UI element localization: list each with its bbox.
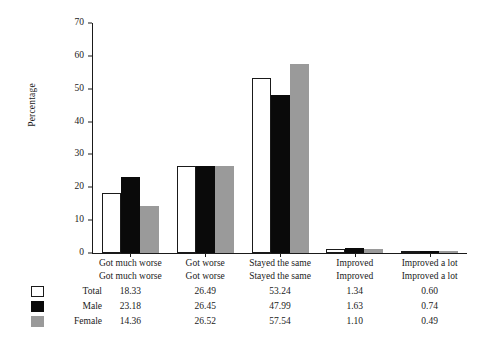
- bar-total-2: [252, 78, 271, 253]
- legend-series-name: Total: [54, 285, 102, 298]
- table-column-header: Improved: [336, 270, 373, 283]
- legend-series-name: Male: [54, 300, 102, 313]
- legend-data-table: Got much worseGot worseStayed the sameIm…: [0, 270, 478, 330]
- y-axis-label: Percentage: [27, 60, 37, 150]
- bar-group: [325, 23, 385, 253]
- y-axis-tick-label: 0: [58, 248, 84, 258]
- table-column-header: Stayed the same: [249, 270, 311, 283]
- table-cell-value: 26.45: [195, 300, 216, 313]
- x-axis-category-label: Improved a lot: [402, 258, 458, 268]
- x-axis-category-label: Got worse: [186, 258, 225, 268]
- table-column-header: Got worse: [186, 270, 225, 283]
- table-column-header: Improved a lot: [402, 270, 458, 283]
- x-axis-tick-mark: [430, 253, 431, 257]
- table-cell-value: 14.36: [120, 315, 141, 328]
- bar-group: [400, 23, 460, 253]
- table-cell-value: 1.34: [346, 285, 363, 298]
- bar-total-1: [177, 166, 196, 253]
- bar-group: [100, 23, 160, 253]
- x-axis-category-label: Got much worse: [99, 258, 162, 268]
- y-axis-tick-label: 50: [58, 84, 84, 94]
- bar-male-1: [196, 166, 215, 253]
- table-cell-value: 26.49: [195, 285, 216, 298]
- table-row: Male23.1826.4547.991.630.74: [0, 300, 478, 315]
- table-cell-value: 47.99: [269, 300, 290, 313]
- table-cell-value: 18.33: [120, 285, 141, 298]
- y-axis-tick-label: 70: [58, 18, 84, 28]
- table-cell-value: 0.74: [421, 300, 438, 313]
- table-cell-value: 1.10: [346, 315, 363, 328]
- bar-female-3: [364, 249, 383, 253]
- plot-area: [93, 23, 467, 253]
- table-cell-value: 1.63: [346, 300, 363, 313]
- table-row: Total18.3326.4953.241.340.60: [0, 285, 478, 300]
- bar-female-0: [140, 206, 159, 253]
- bar-group: [175, 23, 235, 253]
- bar-male-0: [121, 177, 140, 253]
- table-cell-value: 53.24: [269, 285, 290, 298]
- y-axis-tick-label: 30: [58, 150, 84, 160]
- y-axis-tick-label: 20: [58, 183, 84, 193]
- bar-total-0: [102, 193, 121, 253]
- x-axis-tick-mark: [355, 253, 356, 257]
- legend-series-name: Female: [54, 315, 102, 328]
- x-axis-tick-mark: [205, 253, 206, 257]
- table-cell-value: 23.18: [120, 300, 141, 313]
- bar-female-2: [290, 64, 309, 253]
- table-cell-value: 0.60: [421, 285, 438, 298]
- table-row: Female14.3626.5257.541.100.49: [0, 315, 478, 330]
- legend-swatch-total: [31, 286, 44, 297]
- y-axis-tick-label: 60: [58, 51, 84, 61]
- x-axis-tick-mark: [280, 253, 281, 257]
- x-axis-category-label: Improved: [336, 258, 373, 268]
- table-header-row: Got much worseGot worseStayed the sameIm…: [0, 270, 478, 285]
- bar-male-2: [271, 95, 290, 253]
- legend-swatch-female: [31, 316, 44, 327]
- bar-group: [250, 23, 310, 253]
- bar-total-4: [401, 251, 420, 253]
- bar-female-4: [439, 251, 458, 253]
- table-cell-value: 57.54: [269, 315, 290, 328]
- table-column-header: Got much worse: [99, 270, 162, 283]
- x-axis-tick-mark: [130, 253, 131, 257]
- y-axis-tick-label: 10: [58, 215, 84, 225]
- bar-total-3: [326, 249, 345, 253]
- legend-swatch-male: [31, 301, 44, 312]
- table-cell-value: 26.52: [195, 315, 216, 328]
- x-axis-category-label: Stayed the same: [249, 258, 311, 268]
- y-axis-tick-label: 40: [58, 117, 84, 127]
- bar-female-1: [215, 166, 234, 253]
- table-cell-value: 0.49: [421, 315, 438, 328]
